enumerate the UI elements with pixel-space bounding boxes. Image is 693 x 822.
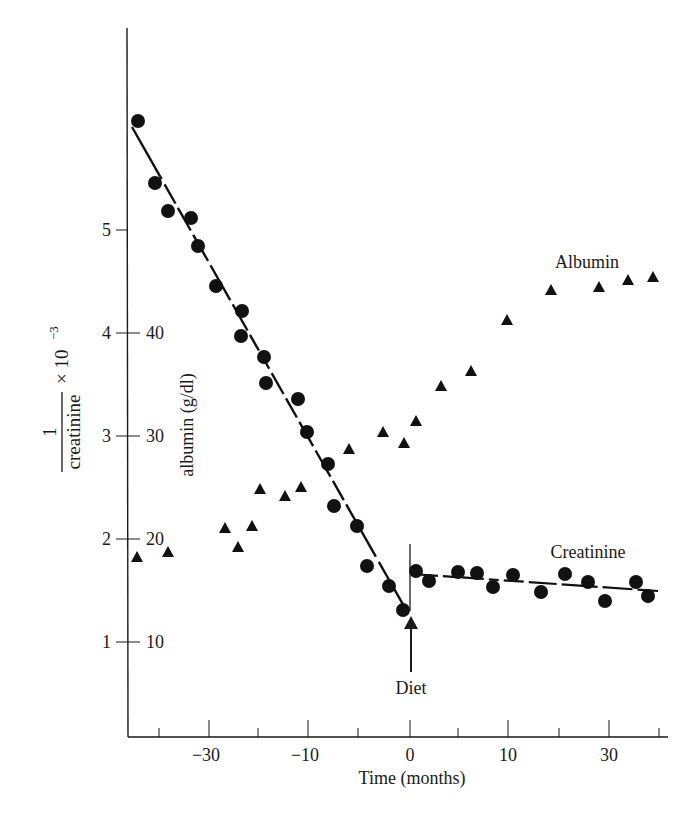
creatinine-point [629, 575, 643, 589]
creatinine-point [321, 457, 335, 471]
albumin-point [593, 281, 605, 292]
albumin-point [435, 380, 447, 391]
albumin-point [622, 274, 634, 285]
y-label-numerator: 1 [39, 427, 60, 437]
creatinine-point [422, 574, 436, 588]
creatinine-point [581, 575, 595, 589]
creatinine-point [396, 603, 410, 617]
creatinine-point [234, 329, 248, 343]
y-label-exponent: −3 [46, 326, 61, 340]
creatinine-point [558, 567, 572, 581]
creatinine-point [184, 211, 198, 225]
albumin-point [246, 520, 258, 531]
albumin-point [343, 443, 355, 454]
y-tick-5: 5 [102, 220, 111, 240]
y-inner-tick-10: 10 [146, 632, 164, 652]
x-tick-0: 0 [406, 745, 415, 765]
creatinine-point [470, 566, 484, 580]
creatinine-series-label: Creatinine [551, 542, 626, 562]
y-tick-3: 3 [102, 426, 111, 446]
y-inner-tick-labels: 40 30 20 10 [146, 323, 164, 652]
creatinine-point [209, 279, 223, 293]
creatinine-point [486, 580, 500, 594]
albumin-point [295, 481, 307, 492]
y-tick-1: 1 [102, 632, 111, 652]
albumin-point [545, 284, 557, 295]
albumin-point [647, 271, 659, 282]
albumin-point [501, 314, 513, 325]
creatinine-point [350, 519, 364, 533]
albumin-point [131, 551, 143, 562]
albumin-point [279, 490, 291, 501]
creatinine-point [409, 564, 423, 578]
y-tick-4: 4 [102, 323, 111, 343]
creatinine-point [534, 585, 548, 599]
albumin-point [465, 365, 477, 376]
albumin-point [254, 483, 266, 494]
albumin-point [219, 522, 231, 533]
creatinine-point [259, 376, 273, 390]
x-axis-label: Time (months) [359, 768, 466, 789]
creatinine-point [148, 176, 162, 190]
albumin-point [398, 437, 410, 448]
albumin-series-label: Albumin [555, 252, 619, 272]
x-tick-10: 10 [499, 745, 517, 765]
creatinine-point [360, 559, 374, 573]
x-tick-neg10: −10 [291, 745, 319, 765]
y-left-tick-labels: 5 4 3 2 1 [102, 220, 111, 652]
x-tick-labels: −30 −10 0 10 30 [192, 745, 618, 765]
creatinine-point [191, 239, 205, 253]
creatinine-point [291, 392, 305, 406]
creatinine-point [641, 589, 655, 603]
creatinine-point [300, 425, 314, 439]
creatinine-point [235, 304, 249, 318]
creatinine-point [257, 350, 271, 364]
x-tick-neg30: −30 [192, 745, 220, 765]
creatinine-fit-line-pre-diet [132, 127, 405, 608]
creatinine-point [382, 579, 396, 593]
creatinine-point [506, 568, 520, 582]
diet-arrow-head-icon [404, 616, 418, 629]
creatinine-point [451, 565, 465, 579]
y-inner-tick-30: 30 [146, 426, 164, 446]
y-tick-2: 2 [102, 529, 111, 549]
y-label-denominator: creatinine [63, 395, 84, 470]
y-axis-line [127, 28, 128, 737]
y-axis-label-inner: albumin (g/dl) [177, 373, 198, 476]
creatinine-point [161, 204, 175, 218]
albumin-points [131, 271, 659, 562]
chart: 5 4 3 2 1 40 30 20 10 1 creatinine × 10 … [0, 0, 693, 822]
y-label-multiplier: × 10 [51, 350, 72, 384]
creatinine-point [327, 499, 341, 513]
y-axis-label-left: 1 creatinine × 10 −3 [39, 326, 84, 472]
albumin-point [232, 541, 244, 552]
albumin-point [410, 415, 422, 426]
creatinine-point [131, 114, 145, 128]
x-tick-30: 30 [600, 745, 618, 765]
y-inner-tick-20: 20 [146, 529, 164, 549]
x-ticks [159, 720, 659, 737]
diet-label: Diet [396, 678, 427, 698]
y-inner-tick-40: 40 [146, 323, 164, 343]
albumin-point [377, 426, 389, 437]
creatinine-point [598, 594, 612, 608]
